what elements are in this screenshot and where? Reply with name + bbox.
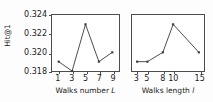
x-axis-label-left-text: Walks number <box>55 86 111 95</box>
plot-area-left <box>52 15 119 71</box>
y-axis-tick-labels: 0.324 0.322 0.320 0.318 <box>14 0 47 102</box>
x-tick-label: 3 <box>134 74 139 83</box>
figure: Hit@1 0.324 0.322 0.320 0.318 13579 3581… <box>0 0 213 102</box>
x-axis-label-right-symbol: l <box>192 86 194 95</box>
x-tick-label: 7 <box>97 74 102 83</box>
y-tick-label: 0.320 <box>14 49 47 57</box>
x-axis-label-left-symbol: L <box>111 86 115 95</box>
y-tick-label: 0.324 <box>14 11 47 19</box>
series-line-right <box>132 15 204 71</box>
y-axis-label: Hit@1 <box>3 16 12 56</box>
x-tick-label: 15 <box>195 74 205 83</box>
x-tick-label: 1 <box>55 74 60 83</box>
x-axis-label-right-text: Walks length <box>142 86 193 95</box>
x-axis-label-left: Walks number L <box>51 86 120 95</box>
y-tick-label: 0.322 <box>14 30 47 38</box>
y-tick-mark <box>49 72 52 73</box>
x-axis-label-right: Walks length l <box>131 86 205 95</box>
chart-panel-walks-length <box>131 14 205 72</box>
chart-panel-walks-number <box>51 14 120 72</box>
x-tick-label: 8 <box>160 74 165 83</box>
x-tick-label: 9 <box>111 74 116 83</box>
x-tick-label: 3 <box>69 74 74 83</box>
series-line-left <box>52 15 119 71</box>
x-tick-label: 5 <box>144 74 149 83</box>
y-tick-label: 0.318 <box>14 68 47 76</box>
plot-area-right <box>132 15 204 71</box>
x-tick-label: 5 <box>83 74 88 83</box>
x-tick-label: 10 <box>168 74 178 83</box>
